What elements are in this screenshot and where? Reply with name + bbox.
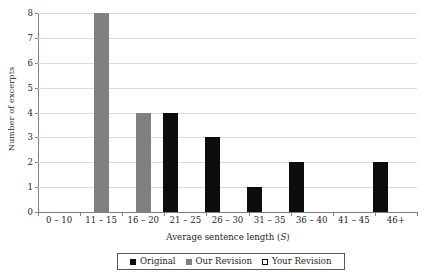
legend-item[interactable]: Your Revision xyxy=(262,257,332,266)
x-axis-tick xyxy=(206,212,207,216)
bar xyxy=(163,113,178,213)
x-axis-tick xyxy=(164,212,165,216)
bar-chart: Number of excerpts 012345678 0 – 1011 – … xyxy=(0,0,433,278)
y-axis-tick-label: 4 xyxy=(28,108,33,117)
bar xyxy=(247,187,262,212)
bar xyxy=(205,137,220,212)
y-axis-tick xyxy=(35,113,38,114)
x-axis-tick-label: 41 – 45 xyxy=(338,216,370,225)
bar xyxy=(136,113,151,213)
legend-swatch-icon xyxy=(130,259,136,265)
x-axis-tick xyxy=(375,212,376,216)
y-axis-title: Number of excerpts xyxy=(6,44,16,174)
x-axis-title: Average sentence length (S) xyxy=(38,232,418,242)
bar xyxy=(94,13,109,212)
x-axis-tick xyxy=(417,212,418,216)
y-axis-tick xyxy=(35,38,38,39)
x-axis-tick-label: 26 – 30 xyxy=(212,216,244,225)
legend-label: Original xyxy=(140,257,176,266)
x-axis-tick xyxy=(249,212,250,216)
legend-label: Our Revision xyxy=(196,257,252,266)
y-axis-tick xyxy=(35,13,38,14)
x-axis-tick xyxy=(291,212,292,216)
y-axis-tick-label: 3 xyxy=(28,133,33,142)
x-axis-title-prefix: Average sentence length ( xyxy=(166,232,280,242)
legend-label: Your Revision xyxy=(272,257,332,266)
legend-item[interactable]: Our Revision xyxy=(186,257,252,266)
x-axis-tick-label: 11 – 15 xyxy=(85,216,117,225)
legend-swatch-icon xyxy=(262,259,268,265)
y-axis-tick-label: 6 xyxy=(28,58,33,67)
x-axis-tick-label: 21 – 25 xyxy=(170,216,202,225)
y-axis-tick xyxy=(35,88,38,89)
x-axis-tick-label: 46+ xyxy=(387,216,405,225)
x-axis-tick-label: 16 – 20 xyxy=(127,216,159,225)
x-axis-title-suffix: ) xyxy=(286,232,289,242)
x-axis-tick xyxy=(38,212,39,216)
y-axis-tick xyxy=(35,63,38,64)
plot-area: 012345678 xyxy=(38,13,417,212)
y-axis-tick xyxy=(35,137,38,138)
x-axis-tick xyxy=(122,212,123,216)
x-axis-tick-label: 31 – 35 xyxy=(254,216,286,225)
x-axis-tick xyxy=(80,212,81,216)
x-axis-tick-label: 0 – 10 xyxy=(46,216,72,225)
y-axis-tick-label: 1 xyxy=(28,183,33,192)
x-axis-tick-label: 36 – 40 xyxy=(296,216,328,225)
y-axis-tick xyxy=(35,187,38,188)
bar xyxy=(373,162,388,212)
bar xyxy=(289,162,304,212)
y-axis-tick-label: 0 xyxy=(28,208,33,217)
y-axis-tick-label: 8 xyxy=(28,9,33,18)
y-axis-tick xyxy=(35,162,38,163)
gridline xyxy=(38,212,417,213)
legend-item[interactable]: Original xyxy=(130,257,176,266)
y-axis-tick-label: 2 xyxy=(28,158,33,167)
x-axis-tick xyxy=(333,212,334,216)
legend-swatch-icon xyxy=(186,259,192,265)
y-axis-tick-label: 5 xyxy=(28,83,33,92)
chart-legend: OriginalOur RevisionYour Revision xyxy=(117,253,345,270)
y-axis-tick-label: 7 xyxy=(28,34,33,43)
